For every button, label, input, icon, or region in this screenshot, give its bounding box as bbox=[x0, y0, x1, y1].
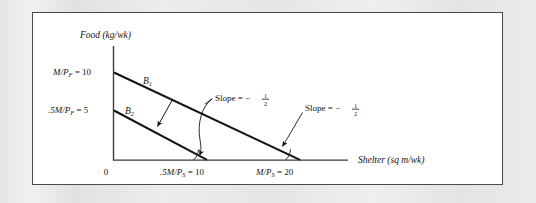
slope-b2-text: Slope = − bbox=[215, 93, 250, 103]
annotation-leaders bbox=[199, 99, 302, 156]
curve-b1-subscript: 1 bbox=[149, 80, 152, 87]
x-tick-b2-main: .5M/P bbox=[160, 167, 183, 177]
x-tick-b1-tail: = 20 bbox=[275, 167, 294, 177]
y-tick-b2-tail: = 5 bbox=[74, 105, 89, 115]
budget-lines-group bbox=[114, 73, 300, 160]
origin-label: 0 bbox=[104, 167, 109, 177]
slope-b1-numerator: 1 bbox=[354, 102, 357, 109]
x-tick-label-b2: .5M/PS = 10 bbox=[160, 167, 205, 178]
curve-label-b2: B2 bbox=[125, 106, 135, 117]
budget-constraint-chart: Food (kg/wk) Shelter (sq m/wk) 0 M/PF = … bbox=[0, 0, 536, 203]
y-tick-b1-main: M/P bbox=[52, 67, 69, 77]
budget-line-b2[interactable] bbox=[114, 111, 207, 160]
svg-text:.5M/PS = 10: .5M/PS = 10 bbox=[160, 167, 205, 178]
svg-text:M/PS = 20: M/PS = 20 bbox=[255, 167, 294, 178]
slope-annotation-b1: Slope = − 1 2 bbox=[305, 102, 359, 117]
figure-root: Food (kg/wk) Shelter (sq m/wk) 0 M/PF = … bbox=[0, 0, 536, 203]
svg-text:B1: B1 bbox=[143, 76, 152, 87]
budget-line-b1[interactable] bbox=[114, 73, 300, 160]
x-tick-label-b1: M/PS = 20 bbox=[255, 167, 294, 178]
curve-b2-subscript: 2 bbox=[131, 110, 135, 117]
y-tick-b2-main: .5M/P bbox=[48, 105, 71, 115]
svg-text:B2: B2 bbox=[125, 106, 135, 117]
slope-b1-text: Slope = − bbox=[305, 103, 340, 113]
leader-slope-b2 bbox=[199, 99, 212, 156]
svg-text:.5M/PF = 5: .5M/PF = 5 bbox=[48, 105, 89, 116]
y-axis-title: Food (kg/wk) bbox=[79, 30, 131, 41]
budget-shift-arrow bbox=[158, 100, 173, 127]
slope-angle-arcs bbox=[194, 149, 291, 160]
x-axis-title: Shelter (sq m/wk) bbox=[358, 155, 425, 166]
y-tick-b1-tail: = 10 bbox=[73, 67, 92, 77]
slope-annotation-b2: Slope = − 1 2 bbox=[215, 92, 269, 107]
x-tick-b1-main: M/P bbox=[255, 167, 272, 177]
leader-tick-slope-b2 bbox=[205, 99, 213, 104]
slope-b2-denominator: 2 bbox=[264, 100, 267, 107]
leader-slope-b1 bbox=[283, 113, 303, 147]
slope-b2-numerator: 1 bbox=[264, 92, 267, 99]
svg-text:M/PF = 10: M/PF = 10 bbox=[52, 67, 92, 78]
slope-b1-denominator: 2 bbox=[354, 110, 357, 117]
x-tick-b2-tail: = 10 bbox=[186, 167, 205, 177]
curve-label-b1: B1 bbox=[143, 76, 152, 87]
y-tick-label-b2: .5M/PF = 5 bbox=[48, 105, 89, 116]
y-tick-label-b1: M/PF = 10 bbox=[52, 67, 92, 78]
